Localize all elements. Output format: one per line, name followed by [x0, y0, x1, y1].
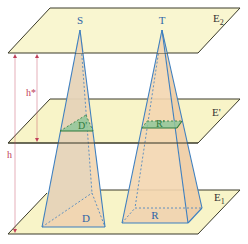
- label-height-h: h: [7, 149, 12, 160]
- label-base-d: D: [82, 212, 90, 224]
- plane-e-prime: [8, 99, 240, 143]
- plane-e2: [8, 8, 240, 53]
- label-apex-s: S: [77, 14, 83, 26]
- label-plane-e-prime: E': [212, 106, 221, 118]
- diagram-canvas: S T E2 E' E1 D' R' D R h* h: [0, 0, 248, 244]
- label-base-r: R: [151, 209, 159, 221]
- label-section-d-prime: D': [78, 120, 87, 131]
- label-height-h-star: h*: [26, 87, 36, 98]
- label-section-r-prime: R': [156, 118, 165, 129]
- label-apex-t: T: [159, 14, 166, 26]
